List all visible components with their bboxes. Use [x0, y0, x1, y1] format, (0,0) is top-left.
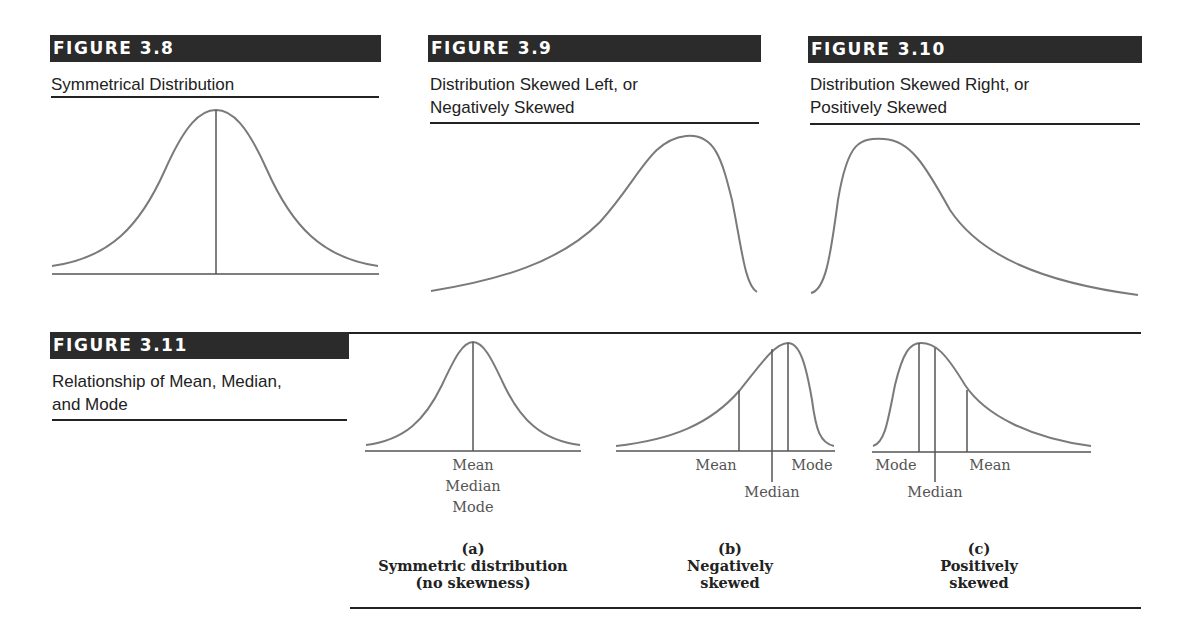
panel-letter: (b): [670, 540, 790, 557]
median-label: Median: [423, 476, 523, 497]
symmetric-curve: [52, 110, 378, 266]
negatively-skewed-curve: [431, 136, 757, 292]
panel-c-median-label: Median: [900, 482, 970, 503]
panel-c-caption: (c) Positively skewed: [919, 540, 1039, 591]
caption-line: Symmetric distribution: [363, 557, 583, 574]
panel-letter: (c): [919, 540, 1039, 557]
caption-line: Positively: [919, 557, 1039, 574]
panel-c-curve: [873, 343, 1091, 446]
panel-a-caption: (a) Symmetric distribution (no skewness): [363, 540, 583, 591]
caption-line: skewed: [670, 574, 790, 591]
panel-a-markers: Mean Median Mode: [423, 455, 523, 518]
panel-b-caption: (b) Negatively skewed: [670, 540, 790, 591]
caption-line: Negatively: [670, 557, 790, 574]
mode-label: Mode: [423, 497, 523, 518]
mean-label: Mean: [423, 455, 523, 476]
panel-letter: (a): [363, 540, 583, 557]
caption-line: skewed: [919, 574, 1039, 591]
caption-line: (no skewness): [363, 574, 583, 591]
panel-c-mean-label: Mean: [965, 455, 1015, 476]
panel-c-mode-label: Mode: [870, 455, 922, 476]
panel-b-curve: [616, 343, 834, 446]
positively-skewed-curve: [811, 139, 1138, 295]
panel-b-mean-label: Mean: [686, 455, 746, 476]
panel-b-median-label: Median: [737, 482, 807, 503]
panel-b-mode-label: Mode: [786, 455, 838, 476]
